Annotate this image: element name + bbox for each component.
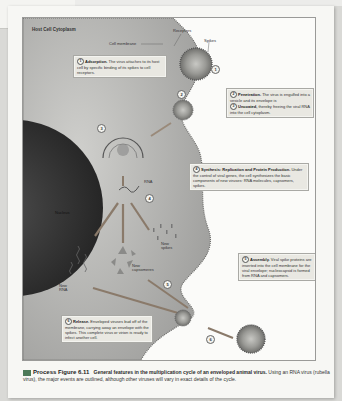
step-box-penetration-uncoating: 2Penetration. The virus is engulfed into… (226, 88, 314, 118)
step-box-release: 6Release. Enveloped viruses bud off of t… (61, 315, 153, 343)
new-rna-label: New RNA (59, 284, 73, 292)
marker-1: 1 (211, 65, 220, 74)
caption-label: Process Figure 6.11 (33, 369, 89, 375)
new-capsomeres-label: New capsomeres (132, 264, 158, 272)
step-number-6: 6 (65, 318, 72, 325)
nucleus-label: Nucleus (55, 211, 69, 215)
cytoplasm-label: Host Cell Cytoplasm (32, 28, 76, 33)
step-title-2: Penetration. (238, 92, 261, 97)
spikes-label: Spikes (204, 39, 216, 43)
receptors-label: Receptors (173, 29, 191, 33)
new-spikes-label: New spikes (161, 242, 181, 250)
step-number-4: 4 (193, 166, 200, 173)
step-number-2: 2 (230, 91, 237, 98)
figure-caption: Process Figure 6.11 General features in … (23, 369, 335, 383)
step-box-adsorption: 1Adsorption. The virus attaches to its h… (73, 55, 167, 78)
step-title-5: Assembly. (250, 257, 270, 262)
step-number-3: 3 (230, 103, 237, 110)
step-box-synthesis: 4Synthesis: Replication and Protein Prod… (189, 163, 309, 191)
marker-5: 5 (163, 280, 172, 289)
process-figure-icon (23, 370, 31, 376)
marker-4: 4 (145, 194, 154, 203)
marker-6: 6 (206, 335, 215, 344)
figure-frame: Host Cell Cytoplasm Cell membrane Nucleu… (22, 17, 316, 361)
marker-2: 2 (177, 90, 186, 99)
step-box-assembly: 5Assembly. Viral spike proteins are inse… (238, 253, 316, 281)
cell-membrane-label: Cell membrane (109, 42, 136, 46)
caption-title: General features in the multiplication c… (94, 369, 267, 375)
rna-label: RNA (144, 180, 152, 184)
step-title-6: Release. (73, 319, 89, 324)
step-title-3: Uncoated, (238, 104, 257, 109)
step-number-1: 1 (77, 58, 84, 65)
step-title-4: Synthesis: Replication and Protein Produ… (201, 167, 290, 172)
step-title-1: Adsorption. (85, 59, 107, 64)
marker-3: 3 (97, 124, 106, 133)
step-number-5: 5 (242, 256, 249, 263)
